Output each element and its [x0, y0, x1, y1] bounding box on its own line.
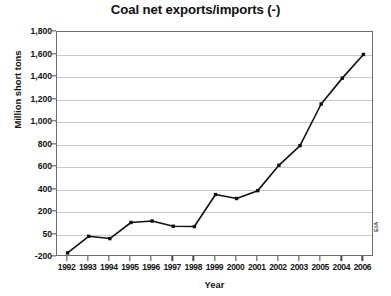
x-tick-label: 1996 — [142, 262, 160, 272]
x-tick-label: 1999 — [206, 262, 224, 272]
x-tick-label: 1995 — [121, 262, 139, 272]
x-tick-label: 1992 — [58, 262, 76, 272]
data-point-marker — [129, 221, 132, 224]
data-point-marker — [172, 225, 175, 228]
x-axis-title: Year — [56, 279, 373, 290]
data-point-marker — [319, 102, 322, 105]
data-point-marker — [235, 197, 238, 200]
x-tick-label: 1994 — [100, 262, 118, 272]
page-title: Coal net exports/imports (-) — [0, 2, 391, 17]
data-point-marker — [341, 76, 344, 79]
x-tick-label: 2003 — [290, 262, 308, 272]
data-point-marker — [298, 144, 301, 147]
data-point-marker — [108, 237, 111, 240]
data-point-marker — [87, 235, 90, 238]
data-point-marker — [277, 164, 280, 167]
plot-area — [56, 31, 373, 256]
chart-figure: Coal net exports/imports (-) Million sho… — [0, 0, 391, 296]
x-tick-label: 1998 — [185, 262, 203, 272]
y-tick-label: 200 — [8, 206, 52, 216]
x-tick-label: 2006 — [354, 262, 372, 272]
data-series-line — [57, 32, 374, 257]
x-tick-label: 2000 — [227, 262, 245, 272]
data-point-marker — [256, 189, 259, 192]
data-point-marker — [66, 251, 69, 254]
y-axis-title: Million short tons — [12, 15, 23, 165]
x-tick-label: 1997 — [163, 262, 181, 272]
y-tick-label: 50 — [8, 229, 52, 239]
data-point-marker — [150, 219, 153, 222]
data-point-marker — [362, 53, 365, 56]
attribution-label: EIA — [373, 221, 379, 232]
series-line — [68, 55, 364, 253]
x-tick-label: 2001 — [248, 262, 266, 272]
x-tick-label: 2004 — [333, 262, 351, 272]
x-tick-label: 1993 — [79, 262, 97, 272]
x-tick-label: 2005 — [311, 262, 329, 272]
x-tick-label: 2002 — [269, 262, 287, 272]
data-point-marker — [193, 225, 196, 228]
y-tick-label: -200 — [8, 251, 52, 261]
y-tick-label: 400 — [8, 184, 52, 194]
data-point-marker — [214, 193, 217, 196]
